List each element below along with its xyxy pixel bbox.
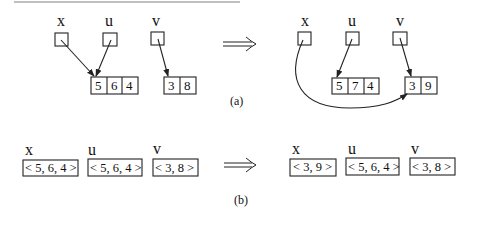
pointer-arrow-u [337, 39, 352, 77]
part-a-before: x u v 5 6 4 3 8 [55, 12, 196, 94]
var-label-x: x [292, 140, 300, 157]
var-label-v: v [411, 140, 419, 157]
array-cell: 4 [367, 78, 374, 93]
pointer-box-u [346, 32, 359, 45]
caption-b: (b) [234, 193, 248, 207]
array-38: 3 8 [164, 77, 196, 94]
caption-a: (a) [230, 94, 243, 108]
var-label-u: u [348, 140, 356, 157]
vector-value-v: < 3, 8 > [155, 161, 194, 175]
pointer-box-x [298, 32, 311, 45]
transform-arrow-a [223, 37, 256, 51]
pointer-label-x: x [301, 12, 309, 29]
pointer-box-v [151, 32, 164, 45]
array-cell: 6 [111, 78, 118, 93]
var-label-v: v [153, 140, 161, 157]
vector-value-x: < 3, 9 > [293, 160, 332, 174]
array-39: 3 9 [405, 77, 437, 94]
pointer-box-x [55, 33, 68, 46]
array-cell: 3 [168, 78, 175, 93]
pointer-label-u: u [105, 12, 113, 29]
array-cell: 4 [126, 78, 133, 93]
array-cell: 7 [352, 78, 359, 93]
diagram-canvas: x u v 5 6 4 3 8 (a) x u v [0, 0, 479, 227]
part-b-after: x u v < 3, 9 > < 5, 6, 4 > < 3, 8 > [290, 140, 455, 176]
var-label-u: u [88, 141, 96, 158]
pointer-label-u: u [348, 12, 356, 29]
pointer-box-u [103, 33, 117, 46]
pointer-label-v: v [396, 12, 404, 29]
pointer-label-x: x [57, 12, 65, 29]
array-cell: 8 [184, 78, 191, 93]
transform-arrow-b [224, 158, 256, 172]
vector-value-u: < 5, 6, 4 > [90, 161, 142, 175]
part-b-before: x u v < 5, 6, 4 > < 5, 6, 4 > < 3, 8 > [23, 140, 198, 176]
var-label-x: x [25, 141, 33, 158]
pointer-arrow-x [61, 40, 94, 76]
array-cell: 9 [425, 78, 432, 93]
array-cell: 5 [336, 78, 343, 93]
array-cell: 5 [95, 78, 102, 93]
array-564: 5 6 4 [91, 77, 138, 94]
part-a-after: x u v 5 7 4 3 9 [296, 12, 437, 108]
vector-value-v: < 3, 8 > [412, 160, 451, 174]
pointer-arrow-x [296, 40, 407, 108]
array-574: 5 7 4 [332, 78, 379, 94]
vector-value-x: < 5, 6, 4 > [25, 161, 77, 175]
array-cell: 3 [409, 78, 416, 93]
pointer-label-v: v [152, 12, 160, 29]
vector-value-u: < 5, 6, 4 > [348, 160, 400, 174]
